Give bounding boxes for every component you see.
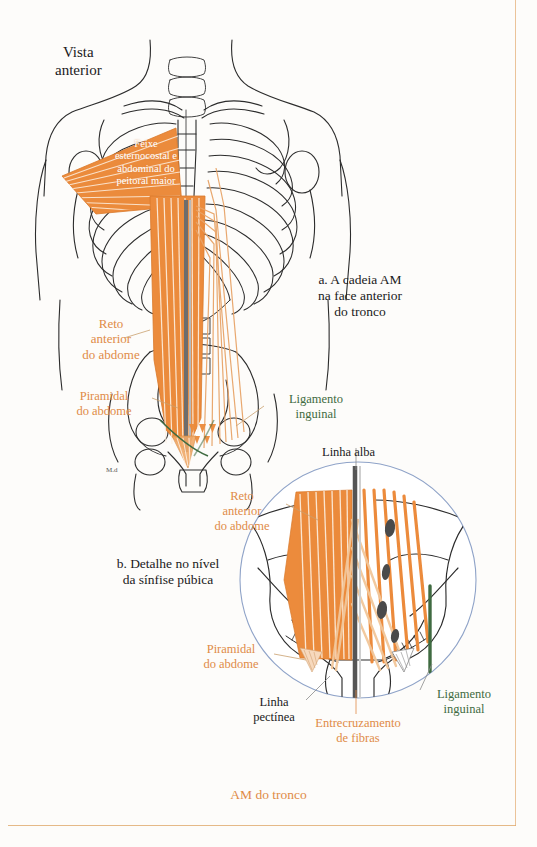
label-rectus-abdominis-b: Reto anterior do abdome [200,489,284,533]
caption-figure-a: a. A cadeia AM na face anterior do tronc… [300,272,420,320]
label-pectoralis-major: Feixe esternocostal e abdominal do peito… [92,138,200,188]
label-fiber-crossing: Entrecruzamento de fibras [303,716,413,746]
anatomy-plate-page: M.d [0,0,537,847]
page-rule-horizontal [8,825,516,826]
caption-figure-b: b. Detalhe no nível da sínfise púbica [84,556,252,588]
label-inguinal-ligament-b: Ligamento inguinal [422,687,506,717]
page-footer-caption: AM do tronco [0,787,537,803]
rectus-abdominis-muscle [150,196,205,452]
label-pectineal-line: Linha pectínea [243,695,305,725]
label-pyramidalis-a: Piramidal do abdome [58,389,150,419]
artist-monogram: M.d [106,466,118,474]
label-pyramidalis-b: Piramidal do abdome [190,642,272,672]
label-inguinal-ligament-a: Ligamento inguinal [270,392,362,422]
label-rectus-abdominis-a: Reto anterior do abdome [70,316,152,362]
page-rule-vertical [515,0,516,826]
label-linea-alba: Linha alba [322,445,375,460]
view-label-anterior: Vista anterior [55,44,102,79]
